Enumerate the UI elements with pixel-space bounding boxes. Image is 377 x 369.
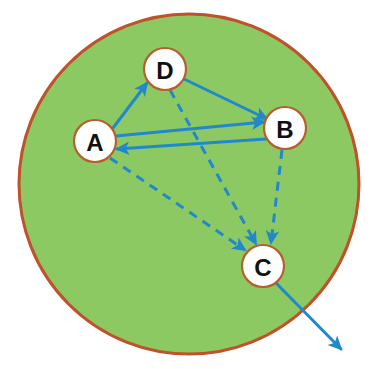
node-c-circle[interactable] [242,245,284,287]
node-b-circle[interactable] [264,107,306,149]
node-a-circle[interactable] [74,120,116,162]
boundary-circle [19,14,359,354]
node-c[interactable]: C [242,245,284,287]
node-d-circle[interactable] [144,48,186,90]
graph-diagram: D A B C [0,0,377,369]
node-b[interactable]: B [264,107,306,149]
diagram-canvas: D A B C [0,0,377,369]
node-d[interactable]: D [144,48,186,90]
node-a[interactable]: A [74,120,116,162]
